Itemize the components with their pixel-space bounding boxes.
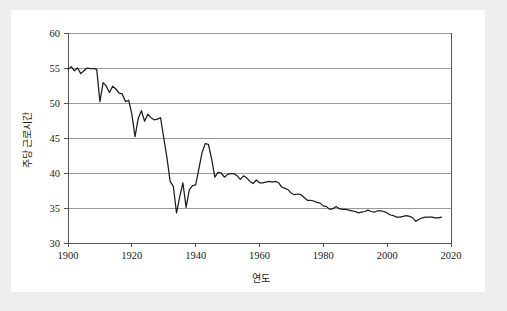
x-tick-label: 1980 xyxy=(313,250,334,261)
y-tick-label: 35 xyxy=(50,203,61,214)
x-axis-title: 연도 xyxy=(252,273,270,284)
axis-ticks xyxy=(64,33,451,247)
x-tick-label: 1960 xyxy=(249,250,270,261)
y-tick-label: 45 xyxy=(50,133,61,144)
y-tick-label: 50 xyxy=(50,98,61,109)
series-line-weekly-hours xyxy=(68,67,441,222)
x-tick-label: 1900 xyxy=(58,250,79,261)
x-axis-tick-labels: 1900192019401960198020002020 xyxy=(58,250,462,261)
x-tick-label: 1920 xyxy=(121,250,142,261)
x-tick-label: 2000 xyxy=(377,250,398,261)
y-axis-tick-labels: 30354045505560 xyxy=(50,28,61,249)
x-tick-label: 1940 xyxy=(185,250,206,261)
y-axis-title: 주당 근로시간 xyxy=(22,112,33,169)
y-tick-label: 30 xyxy=(50,238,61,249)
figure-root: 30354045505560 1900192019401960198020002… xyxy=(0,0,507,311)
line-chart: 30354045505560 1900192019401960198020002… xyxy=(11,10,485,292)
y-tick-label: 60 xyxy=(50,28,61,39)
y-tick-label: 55 xyxy=(50,63,61,74)
y-tick-label: 40 xyxy=(50,168,61,179)
chart-canvas: 30354045505560 1900192019401960198020002… xyxy=(11,10,485,292)
x-tick-label: 2020 xyxy=(441,250,462,261)
gridlines xyxy=(68,33,451,208)
